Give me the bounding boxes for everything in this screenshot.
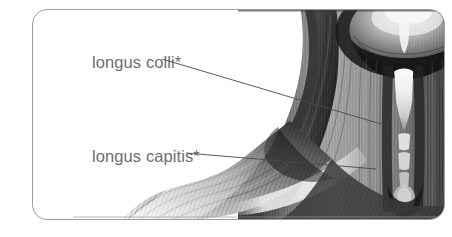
anatomy-illustration [33, 10, 444, 219]
label-longus-colli: longus colli* [92, 54, 181, 71]
label-longus-capitis: longus capitis* [92, 148, 200, 165]
figure-card: longus colli* longus capitis* [32, 9, 445, 220]
anatomy-figure: longus colli* longus capitis* [0, 0, 452, 237]
